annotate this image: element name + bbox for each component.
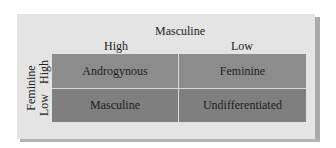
column-label-high: High — [86, 39, 146, 53]
cell-masculine: Masculine — [52, 89, 178, 122]
cell-feminine: Feminine — [179, 54, 306, 88]
panel-shadow-right — [315, 17, 320, 141]
row-label-low: Low — [37, 88, 51, 122]
column-label-low: Low — [212, 39, 272, 53]
cell-undifferentiated: Undifferentiated — [179, 89, 306, 122]
row-axis-title: Feminine — [24, 61, 38, 115]
diagram-stage: Masculine High Low Feminine High Low And… — [0, 0, 336, 148]
cell-androgynous: Androgynous — [52, 54, 178, 88]
column-axis-title: Masculine — [150, 24, 210, 38]
panel-shadow-bottom — [20, 139, 320, 142]
row-label-high: High — [37, 55, 51, 89]
matrix-grid: Androgynous Feminine Masculine Undiffere… — [52, 54, 306, 122]
